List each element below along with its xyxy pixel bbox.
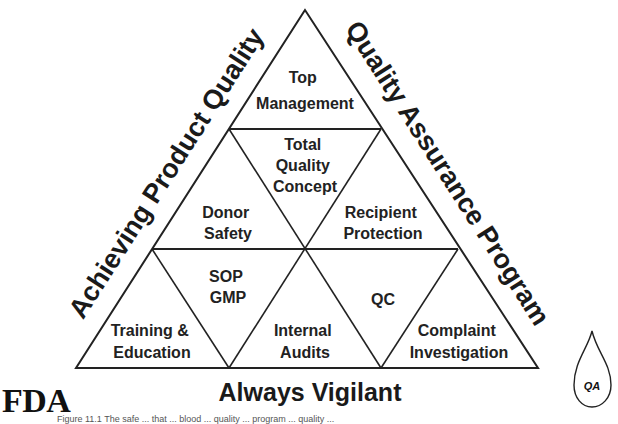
side-label-right: Quality Assurance Program bbox=[339, 16, 555, 331]
bottom-label-always-vigilant: Always Vigilant bbox=[214, 378, 406, 407]
quality-triangle-diagram: Top Management Total Quality Concept Don… bbox=[0, 0, 618, 424]
cell-sop-gmp: SOP GMP bbox=[209, 268, 247, 306]
cell-complaint-investigation: Complaint Investigation bbox=[410, 322, 509, 361]
cell-donor-safety: Donor Safety bbox=[202, 204, 254, 242]
figure-caption: Figure 11.1 The safe ... that ... blood … bbox=[57, 414, 334, 424]
cell-top-management: Top Management bbox=[256, 69, 354, 112]
cell-training-education: Training & Education bbox=[111, 322, 194, 361]
cell-recipient-protection: Recipient Protection bbox=[343, 204, 422, 242]
cell-total-quality-concept: Total Quality Concept bbox=[273, 136, 338, 195]
cell-internal-audits: Internal Audits bbox=[274, 322, 336, 361]
qa-drop-icon: QA bbox=[574, 331, 611, 407]
svg-text:QA: QA bbox=[584, 380, 601, 392]
cell-qc: QC bbox=[371, 291, 395, 308]
